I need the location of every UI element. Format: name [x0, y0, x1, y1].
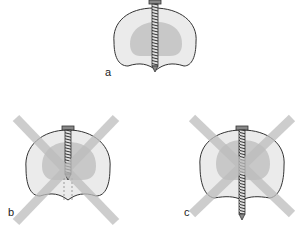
panel-label-c: c	[184, 206, 190, 218]
screw-head	[62, 126, 74, 130]
screw-head	[149, 0, 161, 4]
figure-canvas	[0, 0, 308, 232]
panel-a	[114, 0, 196, 72]
screw-head	[236, 126, 248, 130]
panel-c	[192, 118, 292, 220]
panel-b	[16, 118, 116, 222]
screw-tip	[239, 214, 245, 220]
screw-shaft	[152, 4, 158, 66]
panel-label-a: a	[105, 66, 111, 78]
panel-label-b: b	[8, 206, 14, 218]
